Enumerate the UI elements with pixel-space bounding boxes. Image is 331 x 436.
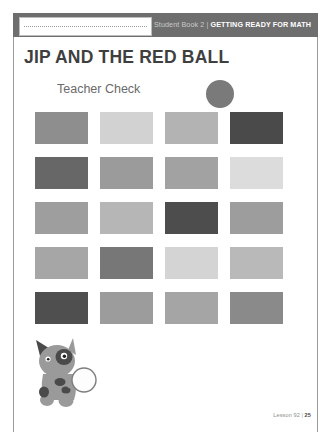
swatch-cell[interactable] xyxy=(35,157,88,189)
page-footer: Lesson 92|25 xyxy=(273,412,311,418)
worksheet-page: Student Book 2|GETTING READY FOR MATH JI… xyxy=(0,0,331,436)
swatch-cell[interactable] xyxy=(230,112,283,144)
swatch-cell[interactable] xyxy=(230,247,283,279)
swatch-cell[interactable] xyxy=(100,112,153,144)
swatch-cell[interactable] xyxy=(165,202,218,234)
swatch-cell[interactable] xyxy=(165,112,218,144)
swatch-cell[interactable] xyxy=(165,292,218,324)
swatch-cell[interactable] xyxy=(100,157,153,189)
swatch-cell[interactable] xyxy=(165,157,218,189)
header-label: Student Book 2|GETTING READY FOR MATH xyxy=(154,13,311,37)
header-book-label: Student Book 2 xyxy=(154,20,205,29)
swatch-row xyxy=(35,292,283,324)
jip-the-dog-illustration xyxy=(30,334,102,408)
student-name-writing-line xyxy=(24,26,147,27)
swatch-row xyxy=(35,247,283,279)
page-title: JIP AND THE RED BALL xyxy=(24,47,229,68)
page-frame-right-rule xyxy=(317,36,318,432)
footer-lesson-label: Lesson 92 xyxy=(273,412,300,418)
teacher-check-circle[interactable] xyxy=(206,80,234,108)
swatch-row xyxy=(35,202,283,234)
swatch-cell[interactable] xyxy=(230,157,283,189)
swatch-cell[interactable] xyxy=(35,292,88,324)
swatch-cell[interactable] xyxy=(230,202,283,234)
footer-page-number: 25 xyxy=(305,412,311,418)
page-frame-left-rule xyxy=(13,36,14,432)
swatch-cell[interactable] xyxy=(100,202,153,234)
swatch-grid xyxy=(35,112,283,324)
swatch-cell[interactable] xyxy=(165,247,218,279)
swatch-cell[interactable] xyxy=(35,202,88,234)
swatch-cell[interactable] xyxy=(230,292,283,324)
swatch-cell[interactable] xyxy=(35,112,88,144)
swatch-cell[interactable] xyxy=(100,247,153,279)
swatch-cell[interactable] xyxy=(100,292,153,324)
header-strand-label: GETTING READY FOR MATH xyxy=(210,20,311,29)
swatch-row xyxy=(35,157,283,189)
swatch-row xyxy=(35,112,283,144)
teacher-check-label: Teacher Check xyxy=(57,82,140,96)
student-name-box[interactable] xyxy=(19,17,152,36)
swatch-cell[interactable] xyxy=(35,247,88,279)
